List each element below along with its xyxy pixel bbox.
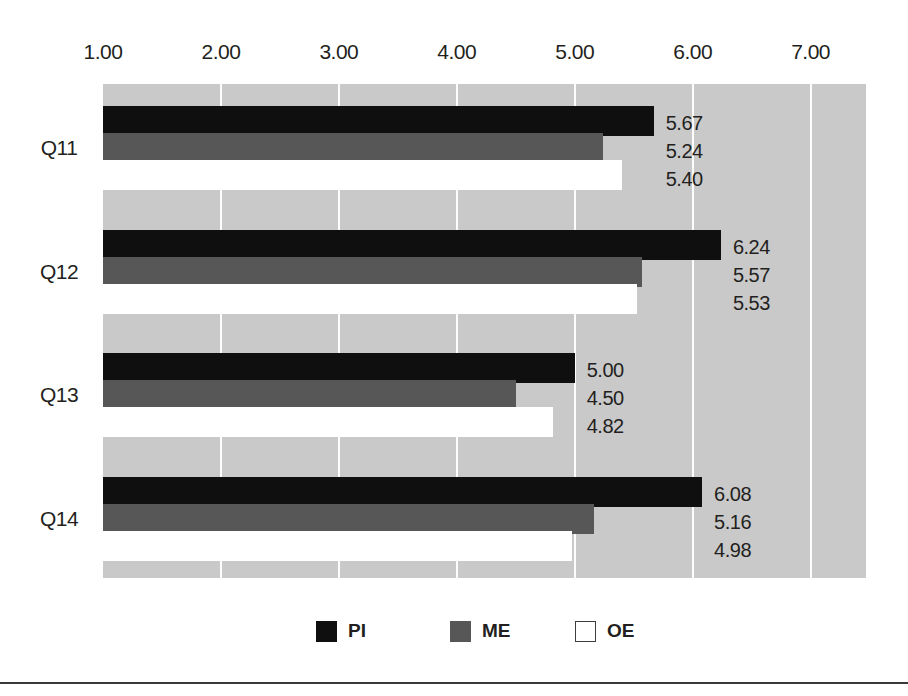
chart-legend: PI ME OE xyxy=(0,618,908,648)
bottom-divider xyxy=(0,682,908,684)
value-label: 4.98 xyxy=(714,536,751,564)
value-label: 5.00 xyxy=(587,356,624,384)
legend-entry-oe: OE xyxy=(575,618,634,644)
bar-pi-q12 xyxy=(103,230,721,260)
bar-me-q11 xyxy=(103,133,603,163)
bar-chart-figure: 1.00 2.00 3.00 4.00 5.00 6.00 7.00 Q11 Q… xyxy=(0,0,908,696)
bar-oe-q11 xyxy=(103,160,622,190)
legend-swatch-icon xyxy=(575,621,596,642)
value-label: 5.24 xyxy=(666,137,703,165)
bar-oe-q12 xyxy=(103,284,637,314)
bar-group xyxy=(103,331,866,455)
bar-group xyxy=(103,84,866,208)
bar-pi-q14 xyxy=(103,477,702,507)
bar-me-q14 xyxy=(103,504,594,534)
x-tick-label: 4.00 xyxy=(437,40,476,64)
y-tick-label: Q12 xyxy=(26,260,92,284)
x-tick-label: 2.00 xyxy=(201,40,240,64)
y-tick-label: Q13 xyxy=(26,383,92,407)
value-label: 5.53 xyxy=(733,289,770,317)
value-label: 5.57 xyxy=(733,261,770,289)
x-tick-label: 6.00 xyxy=(673,40,712,64)
bar-group xyxy=(103,455,866,579)
value-label-group-q11: 5.675.245.40 xyxy=(666,109,703,193)
bar-pi-q11 xyxy=(103,106,654,136)
legend-label: ME xyxy=(482,620,511,642)
value-label-group-q13: 5.004.504.82 xyxy=(587,356,624,440)
value-label: 4.82 xyxy=(587,412,624,440)
value-label: 6.08 xyxy=(714,480,751,508)
x-tick-label: 1.00 xyxy=(84,40,123,64)
x-tick-label: 3.00 xyxy=(319,40,358,64)
value-label: 5.67 xyxy=(666,109,703,137)
legend-swatch-icon xyxy=(450,621,471,642)
legend-entry-pi: PI xyxy=(316,618,366,644)
value-label: 6.24 xyxy=(733,233,770,261)
x-tick-label: 5.00 xyxy=(555,40,594,64)
x-tick-label: 7.00 xyxy=(791,40,830,64)
value-label-group-q12: 6.245.575.53 xyxy=(733,233,770,317)
value-label: 5.16 xyxy=(714,508,751,536)
bar-me-q13 xyxy=(103,380,516,410)
bar-pi-q13 xyxy=(103,353,575,383)
value-label: 4.50 xyxy=(587,384,624,412)
legend-swatch-icon xyxy=(316,621,337,642)
y-tick-label: Q11 xyxy=(26,136,92,160)
value-label-group-q14: 6.085.164.98 xyxy=(714,480,751,564)
value-label: 5.40 xyxy=(666,165,703,193)
plot-area: 5.675.245.406.245.575.535.004.504.826.08… xyxy=(103,84,866,578)
y-tick-label: Q14 xyxy=(26,507,92,531)
bar-me-q12 xyxy=(103,257,642,287)
legend-label: OE xyxy=(607,620,634,642)
bar-oe-q13 xyxy=(103,407,553,437)
legend-entry-me: ME xyxy=(450,618,511,644)
bar-oe-q14 xyxy=(103,531,572,561)
legend-label: PI xyxy=(348,620,366,642)
